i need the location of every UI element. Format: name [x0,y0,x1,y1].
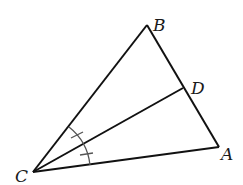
label-a: A [219,144,233,164]
triangle [33,25,219,172]
segment-cb [33,25,147,172]
segment-ac [33,147,219,172]
label-d: D [190,78,205,98]
geometry-diagram: B D A C [0,0,243,185]
segment-cd-bisector [33,88,183,172]
label-c: C [15,166,28,185]
label-b: B [152,15,166,35]
segment-ba [147,25,219,147]
angle-tick-lower [80,153,93,155]
angle-tick-upper [71,132,83,138]
